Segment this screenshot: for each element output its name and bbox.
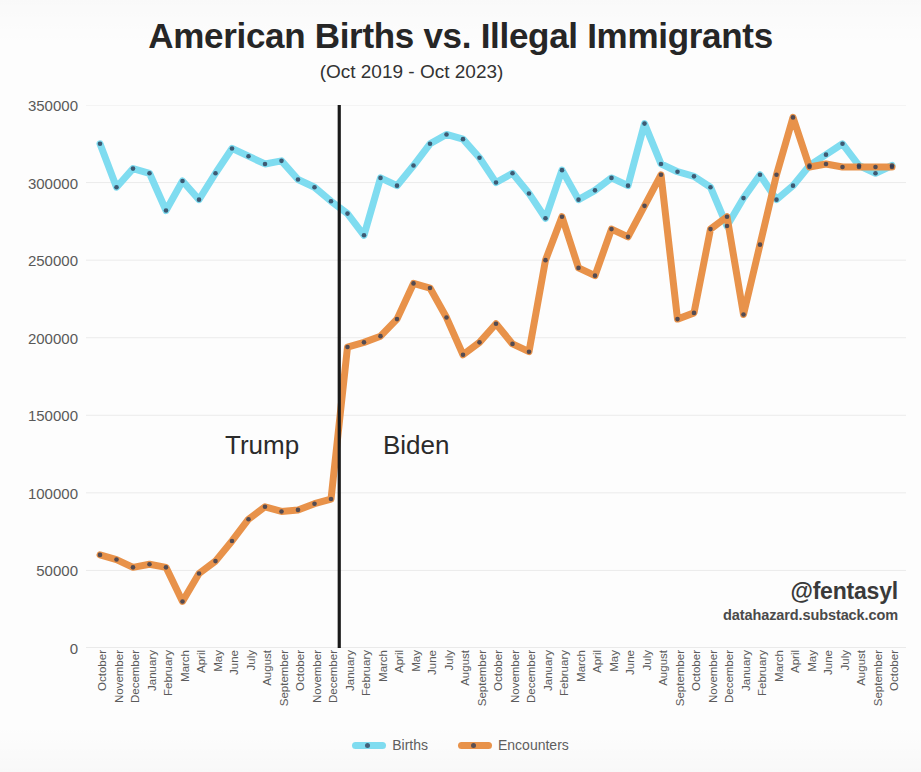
- data-point: [791, 115, 796, 120]
- x-axis-tick-label: January: [740, 650, 752, 691]
- x-axis-tick-label: January: [146, 650, 158, 691]
- data-point: [576, 266, 581, 271]
- x-axis-tick-label: August: [261, 650, 273, 686]
- data-point: [626, 183, 631, 188]
- data-point: [708, 227, 713, 232]
- x-axis-tick-label: September: [674, 650, 686, 706]
- page-title: American Births vs. Illegal Immigrants: [0, 18, 921, 55]
- data-point: [164, 565, 169, 570]
- data-point: [543, 258, 548, 263]
- data-point: [510, 342, 515, 347]
- data-point: [296, 177, 301, 182]
- x-axis-tick-label: September: [476, 650, 488, 706]
- data-point: [741, 312, 746, 317]
- data-point: [692, 174, 697, 179]
- data-point: [98, 553, 103, 558]
- x-axis-tick-label: February: [162, 650, 174, 696]
- x-axis-tick-label: June: [822, 650, 834, 675]
- data-point: [510, 171, 515, 176]
- x-axis-tick-label: May: [410, 650, 422, 672]
- data-point: [758, 242, 763, 247]
- data-point: [609, 176, 614, 181]
- data-point: [461, 137, 466, 142]
- annotation-biden: Biden: [383, 430, 450, 461]
- data-point: [180, 179, 185, 184]
- data-point: [725, 224, 730, 229]
- data-point: [560, 168, 565, 173]
- data-point: [774, 197, 779, 202]
- data-point: [560, 214, 565, 219]
- data-point: [576, 197, 581, 202]
- attribution-handle: @fentasyl: [723, 578, 898, 605]
- plot-area: [86, 105, 906, 648]
- data-point: [824, 152, 829, 157]
- attribution-site: datahazard.substack.com: [723, 607, 898, 623]
- data-point: [428, 141, 433, 146]
- data-point: [230, 146, 235, 151]
- x-axis-tick-label: November: [707, 650, 719, 703]
- data-point: [378, 334, 383, 339]
- data-point: [378, 176, 383, 181]
- x-axis-tick-label: April: [789, 650, 801, 673]
- data-point: [444, 132, 449, 137]
- data-point: [329, 199, 334, 204]
- x-axis-tick-label: May: [212, 650, 224, 672]
- data-point: [197, 197, 202, 202]
- data-point: [873, 165, 878, 170]
- x-axis-tick-label: September: [872, 650, 884, 706]
- y-axis-tick-label: 200000: [4, 329, 78, 346]
- x-axis-tick-label: December: [327, 650, 339, 703]
- data-point: [329, 497, 334, 502]
- x-axis-tick-label: July: [443, 650, 455, 670]
- y-axis-tick-label: 350000: [4, 97, 78, 114]
- x-axis-tick-label: July: [839, 650, 851, 670]
- y-axis-tick-label: 150000: [4, 407, 78, 424]
- x-axis-tick-label: November: [113, 650, 125, 703]
- data-point: [246, 154, 251, 159]
- data-point: [444, 315, 449, 320]
- data-point: [477, 340, 482, 345]
- chart-canvas: [86, 105, 906, 648]
- x-axis-tick-label: August: [657, 650, 669, 686]
- data-point: [692, 311, 697, 316]
- legend-label: Encounters: [498, 737, 569, 753]
- data-point: [246, 517, 251, 522]
- y-axis-tick-label: 100000: [4, 484, 78, 501]
- data-point: [461, 352, 466, 357]
- title-block: American Births vs. Illegal Immigrants (…: [0, 18, 921, 83]
- data-point: [527, 191, 532, 196]
- x-axis-tick-label: September: [278, 650, 290, 706]
- data-point: [840, 165, 845, 170]
- x-axis-tick-label: December: [129, 650, 141, 703]
- x-axis-tick-label: June: [624, 650, 636, 675]
- x-axis-tick-label: January: [542, 650, 554, 691]
- x-axis-tick-label: March: [377, 650, 389, 682]
- data-point: [279, 509, 284, 514]
- legend-swatch-icon: [458, 742, 492, 749]
- data-point: [131, 565, 136, 570]
- x-axis-tick-label: February: [360, 650, 372, 696]
- data-point: [609, 227, 614, 232]
- chart-legend: BirthsEncounters: [0, 737, 921, 753]
- data-point: [477, 155, 482, 160]
- x-axis-tick-label: June: [228, 650, 240, 675]
- data-point: [774, 173, 779, 178]
- data-point: [873, 171, 878, 176]
- series-layer: [100, 117, 892, 601]
- legend-item-births[interactable]: Births: [352, 737, 428, 753]
- x-axis-tick-label: March: [773, 650, 785, 682]
- y-axis-tick-label: 250000: [4, 252, 78, 269]
- x-axis-tick-label: March: [575, 650, 587, 682]
- annotation-trump: Trump: [225, 430, 299, 461]
- data-point: [642, 121, 647, 126]
- data-point: [675, 169, 680, 174]
- data-point: [114, 557, 119, 562]
- x-axis-tick-label: October: [690, 650, 702, 691]
- legend-item-encounters[interactable]: Encounters: [458, 737, 569, 753]
- series-line-encounters: [100, 117, 892, 601]
- data-point: [114, 185, 119, 190]
- x-axis-tick-label: February: [756, 650, 768, 696]
- data-point: [758, 173, 763, 178]
- x-axis-tick-label: October: [492, 650, 504, 691]
- data-point: [857, 165, 862, 170]
